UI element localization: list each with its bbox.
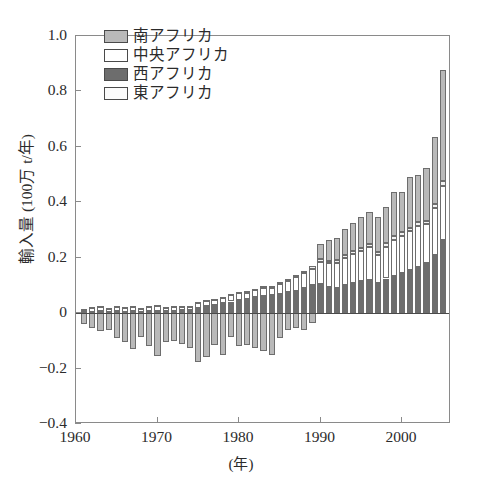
legend-swatch bbox=[104, 68, 128, 81]
x-tick-mark bbox=[75, 417, 76, 423]
legend-label: 東アフリカ bbox=[133, 85, 213, 101]
x-tick-label: 2000 bbox=[371, 429, 431, 445]
x-axis-title: (年) bbox=[0, 452, 482, 473]
legend-label: 南アフリカ bbox=[133, 28, 213, 44]
legend-swatch bbox=[104, 87, 128, 100]
legend-item: 西アフリカ bbox=[104, 65, 229, 83]
x-tick-label: 1960 bbox=[45, 429, 105, 445]
x-tick-mark bbox=[401, 417, 402, 423]
x-tick-label: 1970 bbox=[127, 429, 187, 445]
legend-swatch bbox=[104, 30, 128, 43]
legend-item: 東アフリカ bbox=[104, 84, 229, 102]
legend-swatch bbox=[104, 49, 128, 62]
x-tick-label: 1980 bbox=[208, 429, 268, 445]
legend-label: 中央アフリカ bbox=[133, 47, 229, 63]
x-tick-mark bbox=[238, 417, 239, 423]
chart-figure: 1.00.80.60.40.20−0.2−0.4 196019701980199… bbox=[0, 0, 482, 482]
x-tick-label: 1990 bbox=[290, 429, 350, 445]
legend-label: 西アフリカ bbox=[133, 66, 213, 82]
x-axis-ticks: 19601970198019902000 bbox=[0, 0, 482, 482]
x-tick-mark bbox=[157, 417, 158, 423]
legend-item: 南アフリカ bbox=[104, 27, 229, 45]
y-axis-title: 輸入量 (100万 t/年) bbox=[14, 69, 36, 329]
chart-legend: 南アフリカ中央アフリカ西アフリカ東アフリカ bbox=[104, 27, 229, 102]
x-tick-mark bbox=[320, 417, 321, 423]
legend-item: 中央アフリカ bbox=[104, 46, 229, 64]
